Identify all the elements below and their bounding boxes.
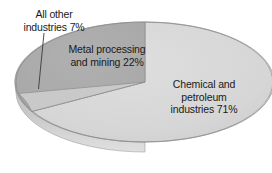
slice-label-all-other: All other industries 7% — [6, 8, 102, 33]
slice-label-chemical-petroleum: Chemical and petroleum industries 71% — [152, 78, 256, 116]
pie-chart: All other industries 7% Metal processing… — [0, 0, 272, 173]
slice-label-metal-processing: Metal processing and mining 22% — [52, 43, 162, 68]
